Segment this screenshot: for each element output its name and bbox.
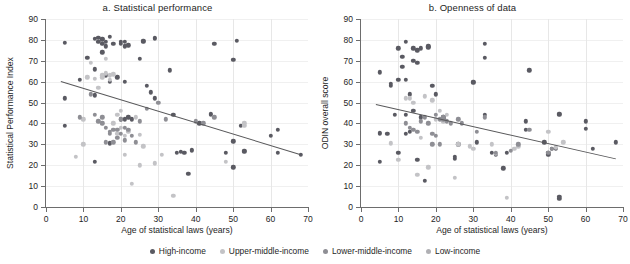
gridline-horizontal	[361, 19, 623, 20]
scatter-point	[160, 153, 164, 157]
y-axis-tick	[356, 19, 361, 20]
scatter-point	[415, 130, 419, 134]
x-axis-tick	[473, 207, 474, 212]
legend-label: Upper-middle-income	[229, 246, 309, 256]
scatter-point	[385, 132, 389, 136]
scatter-point	[107, 132, 111, 136]
scatter-point	[107, 35, 111, 39]
scatter-point	[100, 115, 104, 119]
scatter-point	[137, 163, 141, 167]
scatter-point	[276, 150, 280, 154]
y-axis-tick	[356, 165, 361, 166]
legend-item[interactable]: High-income	[150, 246, 206, 256]
x-axis-tick-label: 70	[303, 214, 312, 224]
x-axis-tick	[548, 207, 549, 212]
x-axis-title-a: Age of statistical laws (years)	[46, 225, 308, 235]
scatter-point	[115, 75, 119, 79]
gridline-vertical	[196, 19, 197, 207]
scatter-point	[396, 150, 400, 154]
y-axis-tick-label: 90	[344, 14, 353, 24]
scatter-point	[434, 134, 438, 138]
chart-title-a: a. Statistical performance	[0, 2, 315, 13]
legend-item[interactable]: Upper-middle-income	[220, 246, 309, 256]
gridline-horizontal	[46, 165, 308, 166]
scatter-point	[111, 121, 115, 125]
scatter-point	[490, 142, 494, 146]
y-axis-tick-label: 60	[29, 77, 38, 87]
x-axis-tick-label: 60	[266, 214, 275, 224]
scatter-point	[400, 54, 404, 58]
y-axis-title-a-text: Statistical Performance Index	[5, 57, 15, 169]
scatter-point	[92, 113, 96, 117]
scatter-point	[426, 165, 430, 169]
scatter-point	[92, 67, 96, 71]
legend-label: Low-income	[435, 246, 480, 256]
gridline-horizontal	[361, 123, 623, 124]
scatter-point	[63, 41, 67, 45]
y-axis-tick-label: 40	[29, 118, 38, 128]
legend-label: Lower-middle-income	[332, 246, 412, 256]
y-axis-tick-label: 0	[33, 202, 38, 212]
scatter-point	[471, 146, 475, 150]
gridline-vertical	[121, 19, 122, 207]
plot-area-a: 0102030405060708090010203040506070	[46, 19, 308, 207]
legend-marker-icon	[150, 249, 155, 254]
x-axis-tick-label: 50	[228, 214, 237, 224]
gridline-horizontal	[46, 61, 308, 62]
x-axis-tick-label: 70	[618, 214, 627, 224]
plot-canvas	[46, 19, 308, 207]
y-axis-line	[360, 19, 361, 207]
scatter-point	[81, 142, 85, 146]
scatter-point	[122, 138, 126, 142]
gridline-horizontal	[46, 82, 308, 83]
scatter-point	[527, 68, 531, 72]
gridline-horizontal	[361, 186, 623, 187]
x-axis-tick-label: 10	[394, 214, 403, 224]
scatter-point	[434, 92, 438, 96]
y-axis-tick	[41, 40, 46, 41]
scatter-point	[501, 166, 505, 170]
scatter-point	[85, 75, 89, 79]
scatter-point	[122, 79, 126, 83]
gridline-horizontal	[361, 82, 623, 83]
x-axis-tick	[46, 207, 47, 212]
scatter-point	[122, 153, 126, 157]
scatter-point	[223, 150, 227, 154]
y-axis-tick	[356, 144, 361, 145]
x-axis-tick-label: 30	[469, 214, 478, 224]
x-axis-tick-label: 30	[154, 214, 163, 224]
scatter-point	[171, 193, 175, 197]
y-axis-tick	[356, 186, 361, 187]
y-axis-title-b: ODIN overall score	[319, 19, 331, 207]
scatter-point	[475, 130, 479, 134]
scatter-point	[378, 70, 382, 74]
scatter-point	[63, 96, 67, 100]
scatter-point	[141, 144, 145, 148]
scatter-point	[164, 117, 168, 121]
scatter-point	[186, 171, 190, 175]
scatter-point	[268, 134, 272, 138]
scatter-point	[119, 109, 123, 113]
scatter-point	[430, 142, 434, 146]
scatter-point	[235, 39, 239, 43]
x-axis-tick	[121, 207, 122, 212]
scatter-point	[404, 40, 408, 44]
gridline-vertical	[473, 19, 474, 207]
gridline-vertical	[586, 19, 587, 207]
scatter-point	[415, 172, 419, 176]
gridline-vertical	[511, 19, 512, 207]
scatter-point	[482, 42, 486, 46]
x-axis-title-b: Age of statistical laws (years)	[361, 225, 623, 235]
scatter-point	[396, 158, 400, 162]
y-axis-tick-label: 0	[348, 202, 353, 212]
legend-item[interactable]: Lower-middle-income	[323, 246, 412, 256]
scatter-point	[396, 46, 400, 50]
scatter-point	[422, 94, 426, 98]
scatter-point	[100, 50, 104, 54]
x-axis-tick-label: 20	[116, 214, 125, 224]
scatter-point	[100, 75, 104, 79]
y-axis-tick	[356, 61, 361, 62]
plot-canvas	[361, 19, 623, 207]
legend-item[interactable]: Low-income	[426, 246, 480, 256]
scatter-point	[583, 126, 587, 130]
